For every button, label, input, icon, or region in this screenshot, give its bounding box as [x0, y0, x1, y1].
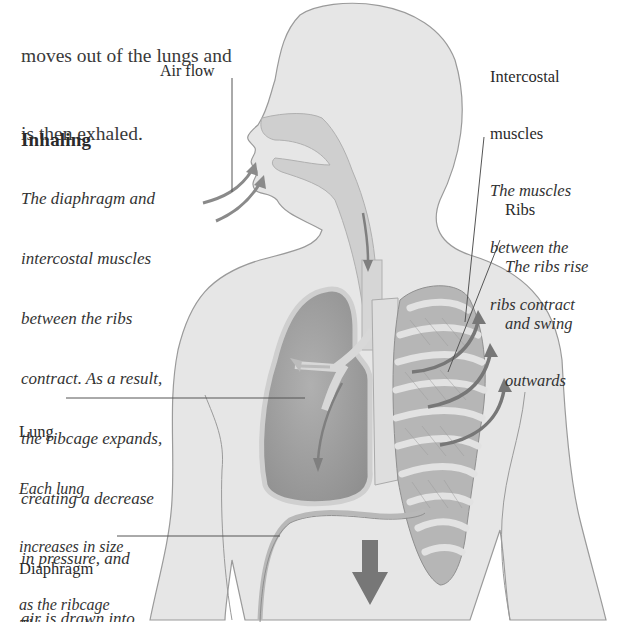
lung-flow-arrow-left	[300, 366, 330, 367]
inhaling-desc-line: between the ribs	[21, 307, 162, 331]
ribs-heading: Ribs	[505, 199, 588, 220]
ribs-desc-line: and swing	[505, 313, 588, 334]
ribs-desc-line: outwards	[505, 370, 588, 391]
inhaling-desc-line: intercostal muscles	[21, 247, 162, 271]
ribs-block: Ribs The ribs rise and swing outwards	[505, 163, 588, 427]
lung-desc-line: Each lung	[19, 478, 123, 500]
diaphragm-block: Diaphragm This muscle contracts and move…	[19, 522, 107, 622]
diaphragm-desc-line: This muscle	[19, 615, 107, 622]
intercostal-heading: muscles	[490, 123, 575, 144]
inhaling-desc-line: The diaphragm and	[21, 187, 162, 211]
intercostal-heading: Intercostal	[490, 66, 575, 87]
diaphragm-heading: Diaphragm	[19, 558, 107, 579]
ribs-desc-line: The ribs rise	[505, 256, 588, 277]
inhaling-heading: Inhaling	[21, 129, 162, 151]
lung-heading: Lung	[19, 421, 123, 442]
respiration-diagram: moves out of the lungs and is then exhal…	[0, 0, 623, 622]
air-flow-label: Air flow	[160, 62, 215, 80]
